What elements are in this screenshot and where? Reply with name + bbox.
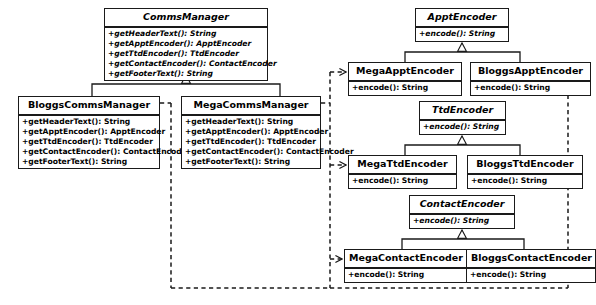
- operation: +encode(): String: [410, 216, 514, 226]
- operation: +encode(): String: [349, 83, 461, 93]
- class-box-mega-appt-encoder[interactable]: MegaApptEncoder +encode(): String: [348, 62, 462, 96]
- class-box-mega-ttd-encoder[interactable]: MegaTtdEncoder +encode(): String: [348, 155, 457, 189]
- operation: +getFooterText(): String: [19, 157, 159, 167]
- class-operations-mega-contact-encoder: +encode(): String: [345, 268, 466, 282]
- operation: +encode(): String: [345, 270, 466, 280]
- class-operations-appt-encoder: +encode(): String: [416, 27, 508, 41]
- class-name-appt-encoder: ApptEncoder: [416, 9, 508, 27]
- operation: +getContactEncoder(): ContactEncoder: [19, 147, 159, 157]
- class-box-ttd-encoder[interactable]: TtdEncoder +encode(): String: [419, 101, 506, 135]
- operation: +encode(): String: [349, 176, 456, 186]
- operation: +getTtdEncoder(): TtdEncoder: [19, 137, 159, 147]
- class-box-contact-encoder[interactable]: ContactEncoder +encode(): String: [409, 195, 515, 229]
- operation: +encode(): String: [416, 29, 508, 39]
- class-box-bloggs-contact-encoder[interactable]: BloggsContactEncoder +encode(): String: [466, 249, 596, 283]
- operation: +getApptEncoder(): ApptEncoder: [19, 127, 159, 137]
- class-name-bloggs-ttd-encoder: BloggsTtdEncoder: [468, 156, 582, 174]
- operation: +getHeaderText(): String: [19, 117, 159, 127]
- class-name-mega-ttd-encoder: MegaTtdEncoder: [349, 156, 456, 174]
- class-name-mega-appt-encoder: MegaApptEncoder: [349, 63, 461, 81]
- class-operations-bloggs-appt-encoder: +encode(): String: [471, 81, 590, 95]
- class-name-bloggs-contact-encoder: BloggsContactEncoder: [467, 250, 595, 268]
- operation: +encode(): String: [468, 176, 582, 186]
- class-operations-mega-ttd-encoder: +encode(): String: [349, 174, 456, 188]
- class-box-mega-comms-manager[interactable]: MegaCommsManager +getHeaderText(): Strin…: [181, 96, 321, 169]
- class-name-comms-manager: CommsManager: [105, 9, 267, 27]
- operation: +getContactEncoder(): ContactEncoder: [182, 147, 320, 157]
- class-box-appt-encoder[interactable]: ApptEncoder +encode(): String: [415, 8, 509, 42]
- class-box-bloggs-comms-manager[interactable]: BloggsCommsManager +getHeaderText(): Str…: [18, 96, 160, 169]
- class-name-bloggs-comms-manager: BloggsCommsManager: [19, 97, 159, 115]
- class-operations-comms-manager: +getHeaderText(): String +getApptEncoder…: [105, 27, 267, 80]
- class-operations-ttd-encoder: +encode(): String: [420, 120, 505, 134]
- operation: +getFooterText(): String: [182, 157, 320, 167]
- class-operations-mega-comms-manager: +getHeaderText(): String +getApptEncoder…: [182, 115, 320, 168]
- operation: +encode(): String: [471, 83, 590, 93]
- class-operations-contact-encoder: +encode(): String: [410, 214, 514, 228]
- operation: +encode(): String: [467, 270, 595, 280]
- class-name-mega-contact-encoder: MegaContactEncoder: [345, 250, 466, 268]
- class-operations-bloggs-comms-manager: +getHeaderText(): String +getApptEncoder…: [19, 115, 159, 168]
- class-operations-bloggs-contact-encoder: +encode(): String: [467, 268, 595, 282]
- class-box-bloggs-ttd-encoder[interactable]: BloggsTtdEncoder +encode(): String: [467, 155, 583, 189]
- class-name-bloggs-appt-encoder: BloggsApptEncoder: [471, 63, 590, 81]
- operation: +getTtdEncoder(): TtdEncoder: [182, 137, 320, 147]
- class-operations-bloggs-ttd-encoder: +encode(): String: [468, 174, 582, 188]
- class-box-mega-contact-encoder[interactable]: MegaContactEncoder +encode(): String: [344, 249, 467, 283]
- operation: +getFooterText(): String: [105, 69, 267, 79]
- operation: +getHeaderText(): String: [105, 29, 267, 39]
- class-box-bloggs-appt-encoder[interactable]: BloggsApptEncoder +encode(): String: [470, 62, 591, 96]
- operation: +getHeaderText(): String: [182, 117, 320, 127]
- operation: +getApptEncoder(): ApptEncoder: [182, 127, 320, 137]
- operation: +getApptEncoder(): ApptEncoder: [105, 39, 267, 49]
- class-name-mega-comms-manager: MegaCommsManager: [182, 97, 320, 115]
- operation: +getContactEncoder(): ContactEncoder: [105, 59, 267, 69]
- class-box-comms-manager[interactable]: CommsManager +getHeaderText(): String +g…: [104, 8, 268, 81]
- class-operations-mega-appt-encoder: +encode(): String: [349, 81, 461, 95]
- operation: +encode(): String: [420, 122, 505, 132]
- class-name-contact-encoder: ContactEncoder: [410, 196, 514, 214]
- class-name-ttd-encoder: TtdEncoder: [420, 102, 505, 120]
- operation: +getTtdEncoder(): TtdEncoder: [105, 49, 267, 59]
